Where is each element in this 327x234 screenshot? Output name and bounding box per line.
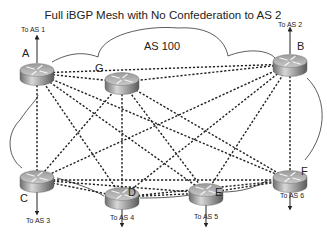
router-g-icon [105,73,139,95]
ibgp-link-g-f [122,82,290,180]
router-a-icon [20,64,54,86]
ibgp-link-a-b [37,64,290,73]
diagram-title: Full iBGP Mesh with No Confederation to … [45,9,282,21]
router-d-label: D [128,186,136,198]
as100-cloud [10,27,322,198]
router-c-label: C [20,192,28,204]
router-a-label: A [22,47,30,59]
to-as5-label: To AS 5 [194,213,218,220]
to-as6-label: To AS 6 [280,192,304,199]
to-as2-label: To AS 2 [278,21,302,28]
to-as3-label: To AS 3 [26,217,50,224]
router-b-label: B [297,40,304,52]
ibgp-link-g-c [37,82,122,180]
to-as4-label: To AS 4 [110,214,134,221]
router-f-label: F [301,165,308,177]
as100-label: AS 100 [144,40,180,52]
router-g-label: G [95,62,104,74]
ibgp-mesh-diagram: Full iBGP Mesh with No Confederation to … [0,0,327,234]
to-as1-label: To AS 1 [21,26,45,33]
router-e-label: E [215,186,222,198]
router-c-icon [20,171,54,193]
routers [20,55,307,210]
router-b-icon [273,55,307,77]
ibgp-links [37,64,290,197]
ibgp-link-g-e [122,82,206,193]
